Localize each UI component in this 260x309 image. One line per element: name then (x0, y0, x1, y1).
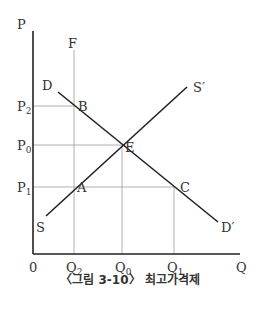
price-label-p1: P1 (17, 180, 31, 197)
point-e-label: E (125, 140, 135, 155)
price-ceiling-diagram: P Q 0 P2 P0 P1 Q2 Q0 Q1 D D′ S S′ F B E … (0, 0, 260, 309)
point-b-label: B (78, 99, 88, 114)
axes (33, 31, 240, 254)
demand-end-label: D′ (221, 220, 234, 235)
guide-lines (33, 50, 174, 254)
price-label-p2: P2 (17, 99, 31, 116)
line-f-label: F (68, 36, 77, 51)
point-c-label: C (180, 180, 190, 195)
point-a-label: A (76, 180, 87, 195)
price-label-p0: P0 (17, 138, 32, 155)
supply-start-label: S (36, 220, 45, 235)
supply-end-label: S′ (193, 80, 205, 95)
figure-caption: 〈그림 3-10〉 최고가격제 (0, 270, 260, 287)
y-axis-label: P (17, 17, 26, 32)
demand-start-label: D (42, 78, 52, 93)
